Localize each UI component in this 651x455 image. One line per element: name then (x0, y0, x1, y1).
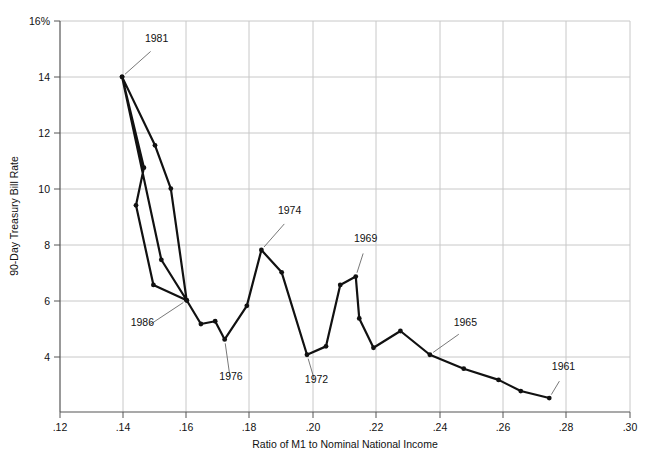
data-point (279, 270, 284, 275)
data-point (324, 344, 329, 349)
data-point (353, 274, 358, 279)
ytick-label-14: 14 (38, 71, 50, 83)
ytick-label-10: 10 (38, 183, 50, 195)
data-point (427, 352, 432, 357)
ytick-label-4: 4 (44, 351, 50, 363)
data-point (134, 203, 139, 208)
data-point (222, 337, 227, 342)
annotation-label: 1972 (305, 373, 329, 385)
xtick-label-16: .16 (179, 421, 194, 433)
data-point (357, 316, 362, 321)
xtick-label-12: .12 (53, 421, 68, 433)
xtick-label-22: .22 (369, 421, 384, 433)
data-point (547, 396, 552, 401)
ytick-label-16: 16% (29, 15, 50, 27)
data-point (338, 283, 343, 288)
annotation-label: 1965 (454, 316, 478, 328)
data-point (142, 165, 147, 170)
data-point (184, 298, 189, 303)
data-point (151, 283, 156, 288)
data-point (496, 377, 501, 382)
annotation-label: 1976 (219, 370, 243, 382)
data-point (159, 257, 164, 262)
data-point (213, 319, 218, 324)
ytick-label-6: 6 (44, 295, 50, 307)
scatter-line-chart: 16% 14 12 10 8 6 4 .12 .14 .16 .18 .20 .… (0, 0, 651, 455)
xtick-label-24: .24 (433, 421, 448, 433)
ytick-label-8: 8 (44, 239, 50, 251)
x-axis-title: Ratio of M1 to Nominal National Income (252, 438, 438, 450)
annotation-label: 1969 (354, 232, 378, 244)
data-point (168, 186, 173, 191)
chart-page: 16% 14 12 10 8 6 4 .12 .14 .16 .18 .20 .… (0, 0, 651, 455)
data-point (244, 303, 249, 308)
data-point (120, 74, 125, 79)
data-point (371, 345, 376, 350)
ytick-label-12: 12 (38, 127, 50, 139)
annotation-label: 1981 (145, 32, 169, 44)
xtick-label-20: .20 (306, 421, 321, 433)
xtick-label-30: .30 (623, 421, 638, 433)
xtick-label-18: .18 (242, 421, 257, 433)
annotation-label: 1961 (552, 360, 576, 372)
data-point (398, 329, 403, 334)
xtick-label-14: .14 (116, 421, 131, 433)
chart-background (0, 0, 651, 455)
xtick-label-26: .26 (496, 421, 511, 433)
data-point (199, 322, 204, 327)
annotation-label: 1974 (278, 204, 302, 216)
data-point (153, 143, 158, 148)
data-point (518, 389, 523, 394)
data-point (259, 248, 264, 253)
annotation-label: 1986 (131, 316, 155, 328)
y-axis-title: 90-Day Treasury Bill Rate (8, 156, 20, 276)
data-point (461, 366, 466, 371)
xtick-label-28: .28 (559, 421, 574, 433)
data-point (305, 352, 310, 357)
